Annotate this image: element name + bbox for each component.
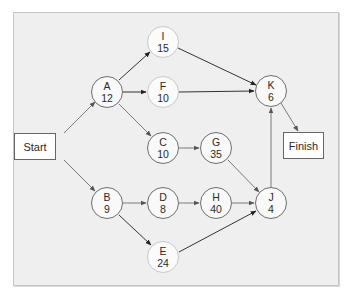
edge-i-k [178,48,256,85]
edge-a-c [119,104,151,136]
edge-k-finish [281,103,298,131]
activity-node-b: B 9 [91,187,123,219]
activity-id: D [159,191,167,203]
activity-duration: 40 [210,203,222,215]
edge-a-i [119,52,150,80]
activity-duration: 8 [160,203,166,215]
edge-start-b [64,160,95,191]
start-label: Start [23,141,46,153]
activity-node-k: K 6 [255,75,287,107]
activity-duration: 15 [157,42,169,54]
activity-node-f: F 10 [147,76,179,108]
activity-duration: 6 [268,91,274,103]
edge-f-k [179,91,254,92]
activity-duration: 10 [157,92,169,104]
activity-id: G [212,136,220,148]
activity-node-a: A 12 [91,76,123,108]
activity-duration: 12 [101,92,113,104]
activity-duration: 10 [157,148,169,160]
activity-id: K [267,79,274,91]
activity-id: E [159,245,166,257]
activity-duration: 4 [268,203,274,215]
activity-duration: 9 [104,203,110,215]
activity-node-d: D 8 [147,187,179,219]
activity-id: J [268,191,273,203]
activity-node-g: G 35 [200,132,232,164]
activity-node-h: H 40 [200,187,232,219]
activity-id: H [212,191,220,203]
activity-duration: 35 [210,148,222,160]
activity-node-c: C 10 [147,132,179,164]
activity-id: F [160,80,166,92]
edge-b-e [119,215,151,245]
activity-node-i: I 15 [147,26,179,58]
finish-label: Finish [289,140,318,152]
activity-id: B [103,191,110,203]
edge-g-j [228,160,259,192]
activity-id: C [159,136,167,148]
activity-id: A [103,80,110,92]
finish-box: Finish [283,132,324,159]
start-box: Start [14,133,56,160]
activity-node-j: J 4 [255,187,287,219]
edge-start-a [64,102,95,133]
activity-id: I [162,30,165,42]
activity-duration: 24 [157,257,169,269]
activity-node-e: E 24 [147,241,179,273]
